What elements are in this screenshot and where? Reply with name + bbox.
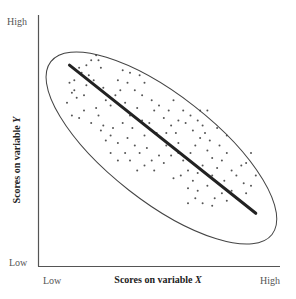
data-point bbox=[177, 119, 179, 121]
data-point bbox=[78, 67, 80, 69]
data-point bbox=[231, 170, 233, 172]
data-point bbox=[197, 172, 199, 174]
data-point bbox=[206, 185, 208, 187]
data-point bbox=[216, 167, 218, 169]
data-point bbox=[226, 152, 228, 154]
data-point bbox=[206, 109, 208, 111]
data-point bbox=[102, 87, 104, 89]
data-point bbox=[114, 94, 116, 96]
data-point bbox=[165, 132, 167, 134]
data-point bbox=[235, 175, 237, 177]
data-point bbox=[112, 127, 114, 129]
data-point bbox=[245, 162, 247, 164]
data-point bbox=[197, 190, 199, 192]
data-point bbox=[165, 145, 167, 147]
data-point bbox=[146, 147, 148, 149]
data-point bbox=[98, 59, 100, 61]
data-point bbox=[93, 79, 95, 81]
data-point bbox=[151, 160, 153, 162]
data-point bbox=[187, 202, 189, 204]
data-point bbox=[148, 122, 150, 124]
data-point bbox=[85, 64, 87, 66]
data-point bbox=[173, 99, 175, 101]
data-point bbox=[153, 170, 155, 172]
data-point bbox=[182, 109, 184, 111]
data-point bbox=[110, 135, 112, 137]
data-point bbox=[85, 84, 87, 86]
data-point bbox=[127, 137, 129, 139]
data-point bbox=[192, 180, 194, 182]
data-points bbox=[66, 54, 257, 207]
data-point bbox=[117, 142, 119, 144]
data-point bbox=[194, 197, 196, 199]
data-point bbox=[173, 177, 175, 179]
data-point bbox=[226, 200, 228, 202]
data-point bbox=[122, 69, 124, 71]
data-point bbox=[209, 140, 211, 142]
data-point bbox=[88, 74, 90, 76]
data-point bbox=[76, 97, 78, 99]
data-point bbox=[139, 152, 141, 154]
data-point bbox=[98, 114, 100, 116]
regression-line bbox=[69, 65, 255, 213]
data-point bbox=[153, 109, 155, 111]
enclosing-ellipse bbox=[18, 20, 296, 277]
data-point bbox=[221, 192, 223, 194]
data-point bbox=[190, 152, 192, 154]
data-point bbox=[139, 74, 141, 76]
data-point bbox=[73, 89, 75, 91]
data-point bbox=[187, 187, 189, 189]
data-point bbox=[83, 94, 85, 96]
data-point bbox=[69, 82, 71, 84]
data-point bbox=[243, 182, 245, 184]
data-point bbox=[170, 124, 172, 126]
data-point bbox=[187, 170, 189, 172]
data-point bbox=[129, 160, 131, 162]
data-point bbox=[83, 109, 85, 111]
data-point bbox=[214, 197, 216, 199]
data-point bbox=[131, 127, 133, 129]
data-point bbox=[134, 89, 136, 91]
data-point bbox=[194, 145, 196, 147]
data-point bbox=[202, 165, 204, 167]
data-point bbox=[78, 117, 80, 119]
data-point bbox=[199, 137, 201, 139]
data-point bbox=[175, 132, 177, 134]
data-point bbox=[206, 150, 208, 152]
data-point bbox=[211, 157, 213, 159]
data-point bbox=[105, 99, 107, 101]
data-point bbox=[136, 170, 138, 172]
data-point bbox=[182, 160, 184, 162]
data-point bbox=[151, 99, 153, 101]
data-point bbox=[144, 165, 146, 167]
data-point bbox=[168, 109, 170, 111]
data-point bbox=[192, 130, 194, 132]
data-point bbox=[221, 160, 223, 162]
data-point bbox=[250, 185, 252, 187]
data-point bbox=[216, 127, 218, 129]
data-point bbox=[245, 192, 247, 194]
data-point bbox=[219, 145, 221, 147]
data-point bbox=[185, 122, 187, 124]
data-point bbox=[71, 114, 73, 116]
data-point bbox=[127, 82, 129, 84]
data-point bbox=[90, 59, 92, 61]
data-point bbox=[73, 79, 75, 81]
data-point bbox=[144, 82, 146, 84]
data-point bbox=[71, 92, 73, 94]
data-point bbox=[90, 122, 92, 124]
data-point bbox=[119, 89, 121, 91]
data-point bbox=[124, 102, 126, 104]
data-point bbox=[117, 160, 119, 162]
data-point bbox=[95, 107, 97, 109]
data-point bbox=[117, 79, 119, 81]
data-point bbox=[202, 202, 204, 204]
data-point bbox=[202, 124, 204, 126]
data-point bbox=[190, 114, 192, 116]
data-point bbox=[211, 205, 213, 207]
data-point bbox=[102, 124, 104, 126]
data-point bbox=[170, 155, 172, 157]
scatter-plot bbox=[0, 0, 296, 299]
data-point bbox=[110, 152, 112, 154]
data-point bbox=[158, 104, 160, 106]
